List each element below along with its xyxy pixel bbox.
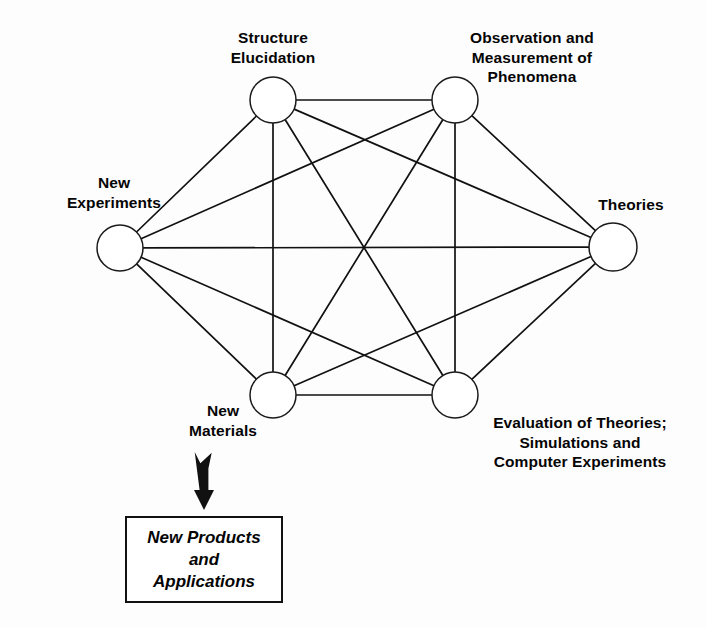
- outcome-box-new-products-and-applications: New Products and Applications: [125, 516, 283, 603]
- label-line: Materials: [155, 421, 291, 441]
- graph-edge-structure-elucidation--theories: [294, 109, 591, 237]
- label-line: Evaluation of Theories;: [462, 413, 698, 433]
- label-line: Observation and: [443, 28, 621, 48]
- graph-node-evaluation-of-theories[interactable]: [432, 372, 478, 418]
- node-label-theories: Theories: [576, 195, 686, 215]
- edges-layer: [137, 100, 596, 395]
- node-label-new-materials: New Materials: [155, 401, 291, 440]
- graph-node-structure-elucidation[interactable]: [250, 77, 296, 123]
- graph-edge-theories--new-experiments: [143, 247, 589, 248]
- node-label-evaluation-of-theories: Evaluation of Theories; Simulations and …: [462, 413, 698, 472]
- label-line: New: [155, 401, 291, 421]
- outcome-box-line: New Products: [147, 527, 260, 549]
- label-line: Simulations and: [462, 433, 698, 453]
- graph-node-new-experiments[interactable]: [97, 225, 143, 271]
- node-label-new-experiments: New Experiments: [46, 173, 182, 212]
- outcome-arrow-layer: [194, 452, 214, 510]
- label-line: Computer Experiments: [462, 452, 698, 472]
- label-line: Phenomena: [443, 67, 621, 87]
- label-line: Elucidation: [191, 48, 355, 68]
- graph-edge-observation-measurement--new-experiments: [141, 109, 434, 238]
- graph-node-theories[interactable]: [589, 223, 637, 271]
- node-label-observation-measurement: Observation and Measurement of Phenomena: [443, 28, 621, 87]
- label-line: New: [46, 173, 182, 193]
- graph-svg: [0, 0, 706, 628]
- graph-edge-theories--new-materials: [294, 257, 591, 386]
- diagram-canvas: Structure Elucidation Observation and Me…: [0, 0, 706, 628]
- down-arrow-icon: [194, 452, 214, 510]
- label-line: Experiments: [46, 193, 182, 213]
- label-line: Structure: [191, 28, 355, 48]
- node-label-structure-elucidation: Structure Elucidation: [191, 28, 355, 67]
- label-line: Theories: [576, 195, 686, 215]
- graph-edge-evaluation-of-theories--new-experiments: [141, 257, 434, 386]
- outcome-box-line: and: [189, 549, 219, 571]
- label-line: Measurement of: [443, 48, 621, 68]
- outcome-box-line: Applications: [153, 571, 255, 593]
